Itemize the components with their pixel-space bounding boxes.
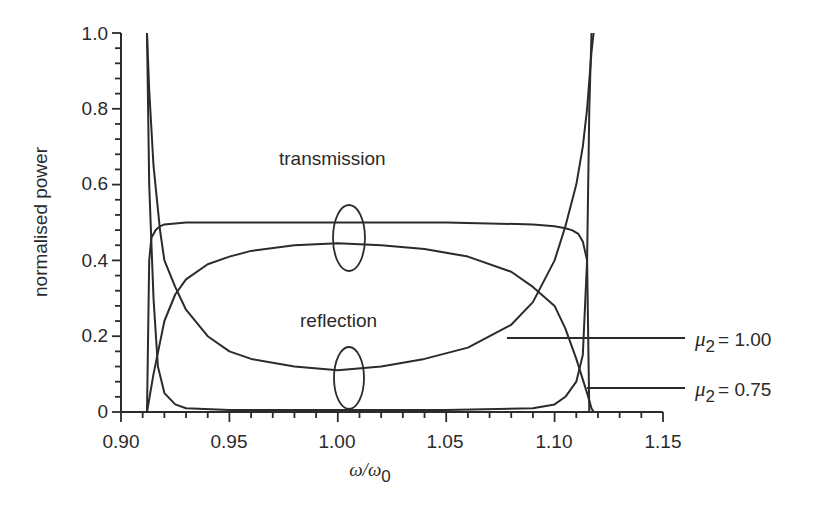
y-ticks [112,33,121,412]
transmission-label: transmission [279,148,386,169]
y-tick-label: 0 [97,401,108,422]
x-tick-labels: 0.90 0.95 1.00 1.05 1.10 1.15 [103,431,682,452]
reflection-label: reflection [300,310,377,331]
x-tick-label: 0.90 [103,431,140,452]
x-tick-label: 1.05 [427,431,464,452]
y-tick-label: 0.8 [82,98,108,119]
x-tick-label: 1.10 [536,431,573,452]
mu-100-value: = 1.00 [718,329,771,350]
y-axis-label: normalised power [30,146,51,297]
y-tick-label: 0.2 [82,325,108,346]
mu-100-label: μ2= 1.00 [694,327,771,356]
mu-subscript: 2 [706,387,715,406]
x-axis-label: ω/ω0 [349,459,391,486]
x-axis-label-main: ω/ω [349,459,381,480]
x-ticks [121,412,663,422]
x-tick-label: 0.95 [211,431,248,452]
y-tick-labels: 0 0.2 0.4 0.6 0.8 1.0 [82,23,109,422]
mu-symbol: μ [694,377,706,401]
chart: 0 0.2 0.4 0.6 0.8 1.0 0.90 0.95 1.00 1.0… [0,0,819,515]
mu-075-value: = 0.75 [718,379,771,400]
mu-symbol: μ [694,327,706,351]
transmission-ellipse [333,205,365,271]
mu-subscript: 2 [706,337,715,356]
y-tick-label: 1.0 [82,23,108,44]
reflection-ellipse [334,347,364,409]
x-tick-label: 1.00 [319,431,356,452]
y-tick-label: 0.4 [82,250,109,271]
x-axis-label-subscript: 0 [381,467,390,486]
curves [147,33,594,412]
mu-075-label: μ2= 0.75 [694,377,771,406]
x-tick-label: 1.15 [645,431,682,452]
y-tick-label: 0.6 [82,173,108,194]
